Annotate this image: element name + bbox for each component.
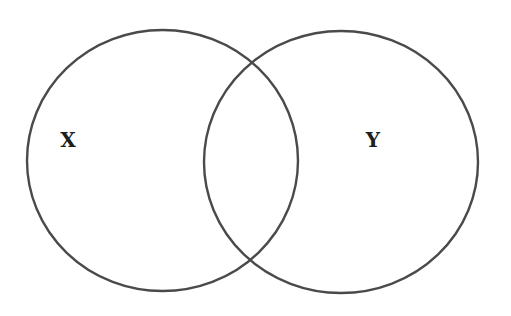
set-x-label: X xyxy=(60,128,76,152)
venn-diagram: X Y xyxy=(0,0,511,316)
set-y-label: Y xyxy=(365,128,381,152)
set-y-circle xyxy=(204,31,478,293)
set-x-circle xyxy=(27,30,298,291)
